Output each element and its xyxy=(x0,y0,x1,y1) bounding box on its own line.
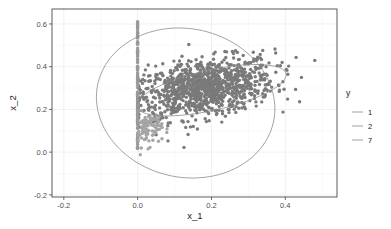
legend-label-1: 1 xyxy=(368,108,372,117)
x-tick-label: -0.2 xyxy=(57,201,70,210)
legend-label-2: 2 xyxy=(368,122,372,131)
legend-label-7: 7 xyxy=(368,136,372,145)
y-tick-label: 0.0 xyxy=(37,148,47,157)
x-tick-label: 0.2 xyxy=(206,201,216,210)
x-axis-title: x_1 xyxy=(187,210,202,221)
y-tick-label: -0.2 xyxy=(34,191,47,200)
y-axis-title: x_2 xyxy=(7,95,18,110)
x-tick-label: 0.0 xyxy=(132,201,142,210)
x-tick-label: 0.4 xyxy=(280,201,290,210)
y-tick-label: 0.4 xyxy=(37,62,47,71)
scatter-chart: -0.20.00.20.4 -0.20.00.20.40.6 x_1 x_2 y… xyxy=(0,0,391,229)
y-tick-label: 0.2 xyxy=(37,105,47,114)
y-tick-label: 0.6 xyxy=(37,20,47,29)
